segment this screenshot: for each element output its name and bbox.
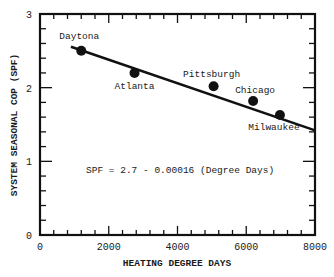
y-axis-title: SYSTEM SEASONAL COP (SPF) <box>9 54 20 197</box>
x-tick-label: 0 <box>37 242 43 253</box>
data-points: DaytonaAtlantaPittsburghChicagoMilwaukee <box>59 31 300 133</box>
x-tick-label: 6000 <box>234 242 258 253</box>
x-tick-label: 8000 <box>303 242 327 253</box>
y-tick-label: 2 <box>26 84 32 95</box>
point-label: Pittsburgh <box>183 69 240 80</box>
y-tick-label: 0 <box>26 231 32 242</box>
data-point <box>130 68 140 78</box>
chart: 020004000600080000123 DaytonaAtlantaPitt… <box>0 0 334 277</box>
x-tick-label: 2000 <box>97 242 121 253</box>
data-point <box>209 81 219 91</box>
x-tick-label: 4000 <box>165 242 189 253</box>
point-label: Daytona <box>59 31 99 42</box>
y-tick-label: 3 <box>26 10 32 21</box>
point-label: Atlanta <box>115 81 155 92</box>
y-tick-label: 1 <box>26 157 32 168</box>
data-point <box>76 46 86 56</box>
point-label: Milwaukee <box>248 122 300 133</box>
data-point <box>248 96 258 106</box>
point-label: Chicago <box>235 85 275 96</box>
x-axis-title: HEATING DEGREE DAYS <box>123 258 232 269</box>
equation-annotation: SPF = 2.7 - 0.00016 (Degree Days) <box>86 165 274 176</box>
data-point <box>275 110 285 120</box>
